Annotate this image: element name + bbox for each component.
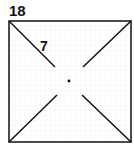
center-dot <box>68 80 71 83</box>
diagram-canvas <box>0 0 134 144</box>
puzzle-number: 18 <box>9 3 26 18</box>
segment-label: 7 <box>40 39 48 53</box>
